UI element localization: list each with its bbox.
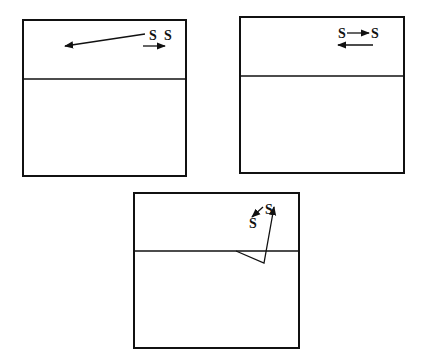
s-label: S xyxy=(338,26,346,41)
panel-frame xyxy=(23,20,186,176)
arrow-icon xyxy=(65,34,145,46)
panel-a: SS xyxy=(23,20,186,176)
s-label: S xyxy=(164,28,172,43)
s-label: S xyxy=(149,28,157,43)
s-label: S xyxy=(371,26,379,41)
s-label: S xyxy=(249,216,257,231)
panel-frame xyxy=(134,193,299,348)
panel-frame xyxy=(240,17,404,173)
panel-c: SS xyxy=(134,193,299,348)
panel-b: SS xyxy=(240,17,404,173)
s-label: S xyxy=(265,202,273,217)
diagram-canvas: SSSSSS xyxy=(0,0,426,363)
